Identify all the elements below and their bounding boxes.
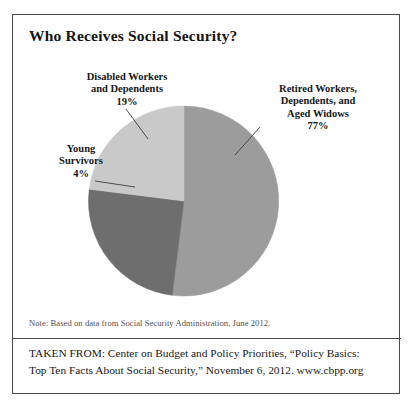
pie-label-young-survivors: Young Survivors 4% — [29, 143, 133, 180]
pie-label-disabled: Disabled Workers and Dependents 19% — [61, 71, 193, 108]
pie-slice-young-survivors — [88, 189, 184, 295]
pie-label-retired-line1: Retired Workers, — [245, 83, 391, 95]
pie-label-retired-line3: Aged Widows — [245, 108, 391, 120]
pie-label-retired-percent: 77% — [245, 120, 391, 132]
pie-label-young-percent: 4% — [29, 168, 133, 180]
pie-label-disabled-line2: and Dependents — [61, 83, 193, 95]
chart-note: Note: Based on data from Social Security… — [29, 318, 270, 328]
pie-label-disabled-line1: Disabled Workers — [61, 71, 193, 83]
pie-label-retired-line2: Dependents, and — [245, 95, 391, 107]
pie-slice-retired — [172, 106, 279, 296]
source-line-1: TAKEN FROM: Center on Budget and Policy … — [29, 345, 389, 362]
source-line-2: Top Ten Facts About Social Security,” No… — [29, 362, 389, 379]
pie-label-young-line1: Young — [29, 143, 133, 155]
source-divider — [13, 338, 401, 339]
pie-label-retired: Retired Workers, Dependents, and Aged Wi… — [245, 83, 391, 133]
pie-chart: Disabled Workers and Dependents 19% Youn… — [13, 15, 401, 315]
source-attribution: TAKEN FROM: Center on Budget and Policy … — [29, 345, 389, 378]
pie-label-disabled-percent: 19% — [61, 96, 193, 108]
figure-frame: Who Receives Social Security? Disabled W… — [12, 14, 400, 394]
pie-label-young-line2: Survivors — [29, 155, 133, 167]
